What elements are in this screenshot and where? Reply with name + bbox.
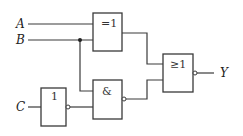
not-gate: 1 [41,88,70,126]
nand-gate: & [93,80,126,119]
output-label-y: Y [220,66,229,80]
input-label-c: C [16,100,25,114]
wire-b-to-nand [80,40,93,91]
nor-gate: ≥1 [163,54,197,92]
logic-circuit-diagram: A B C =1 1 & ≥1 Y [0,0,243,136]
wire-xor-to-nor [122,33,163,64]
input-label-b: B [15,33,25,47]
not-symbol: 1 [51,90,58,103]
nor-symbol: ≥1 [170,58,186,71]
wire-nand-to-nor [126,80,163,99]
nand-inversion-bubble [122,97,126,101]
junction-dot [78,38,82,42]
nand-symbol: & [102,85,112,98]
input-label-a: A [15,17,25,31]
xor-symbol: =1 [101,17,117,30]
xor-gate: =1 [93,13,122,51]
not-inversion-bubble [66,105,70,109]
nor-inversion-bubble [193,71,197,75]
